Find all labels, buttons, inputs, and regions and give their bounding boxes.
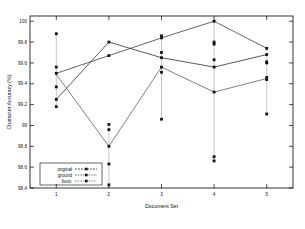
data-point	[265, 62, 268, 65]
data-point	[55, 98, 58, 101]
y-tick-label: 99.6	[18, 61, 27, 66]
y-tick-label: 98.6	[18, 165, 27, 170]
data-point	[160, 118, 163, 121]
y-tick-label: 99	[22, 123, 28, 128]
legend-label-original[interactable]: original	[57, 167, 72, 172]
y-tick-label: 99.8	[18, 40, 27, 45]
data-point	[160, 71, 163, 74]
chart-legend[interactable]: originalgroundboot.	[40, 163, 102, 185]
data-point	[160, 36, 163, 39]
data-point	[265, 113, 268, 116]
x-tick-label: 2	[108, 192, 111, 197]
chart-figure: 98.498.698.89999.299.499.699.8100 12345 …	[0, 0, 305, 229]
data-point	[213, 20, 216, 23]
legend-label-boot[interactable]: boot.	[62, 179, 72, 184]
legend-marker-sample	[85, 174, 88, 177]
x-tick-label: 5	[265, 192, 268, 197]
data-point	[160, 56, 163, 59]
data-point	[265, 78, 268, 81]
legend-marker-sample	[85, 180, 88, 183]
legend-marker-sample	[85, 168, 88, 171]
y-tick-label: 98.4	[18, 186, 27, 191]
data-point	[108, 183, 111, 186]
data-point	[55, 32, 58, 35]
x-tick-label: 4	[213, 192, 216, 197]
x-axis-title: Document Set	[145, 203, 178, 209]
error-bars	[56, 21, 266, 185]
data-point	[265, 53, 268, 56]
data-point	[213, 66, 216, 69]
data-point	[265, 47, 268, 50]
x-tick-label: 1	[55, 192, 58, 197]
x-tick-label: 3	[160, 192, 163, 197]
legend-label-ground[interactable]: ground	[58, 173, 73, 178]
data-point	[213, 58, 216, 61]
data-point	[55, 105, 58, 108]
data-point	[213, 43, 216, 46]
data-point	[55, 85, 58, 88]
data-point	[108, 41, 111, 44]
data-point	[108, 54, 111, 57]
data-point	[108, 123, 111, 126]
data-point	[213, 155, 216, 158]
y-axis-ticks: 98.498.698.89999.299.499.699.8100	[18, 19, 293, 191]
data-point	[55, 66, 58, 69]
data-point	[160, 66, 163, 69]
y-axis-title: Character Accuracy (%)	[6, 74, 12, 129]
data-point	[108, 145, 111, 148]
data-point	[55, 72, 58, 75]
y-tick-label: 99.2	[18, 102, 27, 107]
y-tick-label: 98.8	[18, 144, 27, 149]
character-accuracy-plot: 98.498.698.89999.299.499.699.8100 12345 …	[0, 0, 305, 229]
data-point	[213, 159, 216, 162]
data-point	[108, 163, 111, 166]
data-point	[160, 51, 163, 54]
y-tick-label: 100	[19, 19, 27, 24]
data-point	[108, 128, 111, 131]
y-tick-label: 99.4	[18, 81, 27, 86]
data-point	[213, 91, 216, 94]
